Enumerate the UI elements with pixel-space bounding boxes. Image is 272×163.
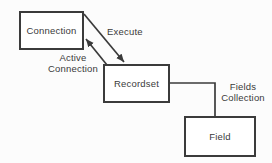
active-connection-edge-label: Active Connection	[43, 52, 103, 74]
fields-collection-edge-label-line2: Collection	[213, 92, 272, 103]
node-recordset-label: Recordset	[114, 78, 159, 89]
active-connection-edge-label-line1: Active	[43, 52, 103, 63]
active-connection-edge-label-line2: Connection	[43, 63, 103, 74]
node-recordset: Recordset	[103, 64, 170, 103]
diagram-canvas: Connection Recordset Field Execute Activ…	[0, 0, 272, 163]
node-field-label: Field	[209, 131, 231, 142]
node-connection-label: Connection	[26, 25, 76, 36]
node-connection: Connection	[19, 11, 84, 50]
node-field: Field	[184, 116, 256, 157]
fields-collection-connector	[170, 83, 215, 116]
execute-edge-label: Execute	[107, 26, 143, 37]
fields-collection-edge-label: Fields Collection	[213, 81, 272, 103]
fields-collection-edge-label-line1: Fields	[213, 81, 272, 92]
